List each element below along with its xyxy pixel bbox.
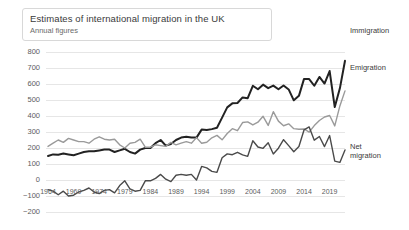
series-label-net-migration: Netmigration [350,142,390,161]
x-axis-tick-label: 1989 [168,188,184,196]
x-axis-tick-label: 2009 [271,188,287,196]
y-axis-tick-label: −200 [10,208,40,216]
y-axis-tick-label: 400 [10,112,40,120]
x-axis-tick-label: 2014 [296,188,312,196]
y-axis-tick-label: 100 [10,160,40,168]
x-axis-tick-label: 1979 [117,188,133,196]
y-axis-tick-label: 500 [10,96,40,104]
y-axis-tick-label: −100 [10,192,40,200]
x-axis-tick-label: 1969 [66,188,82,196]
series-label-line: migration [350,151,390,161]
series-label-line: Immigration [350,26,389,35]
series-label-line: Emigration [350,63,386,72]
x-axis-tick-label: 2019 [322,188,338,196]
series-label-emigration: Emigration [350,63,386,72]
y-axis-tick-label: 800 [10,48,40,56]
x-axis-tick-label: 1964 [40,188,56,196]
y-axis-tick-label: 700 [10,64,40,72]
x-axis-tick-label: 1999 [219,188,235,196]
x-axis-tick-label: 1974 [91,188,107,196]
x-axis-tick-label: 2004 [245,188,261,196]
chart-screenshot: Estimates of international migration in … [0,0,409,230]
plot-lines [48,61,345,196]
y-axis-tick-label: 300 [10,128,40,136]
x-axis-tick-label: 1994 [194,188,210,196]
x-axis-tick-label: 1984 [143,188,159,196]
y-axis-tick-label: 600 [10,80,40,88]
y-axis-tick-label: 200 [10,144,40,152]
series-label-immigration: Immigration [350,26,389,35]
y-axis-tick-label: 0 [10,176,40,184]
series-label-line: Net [350,142,390,152]
